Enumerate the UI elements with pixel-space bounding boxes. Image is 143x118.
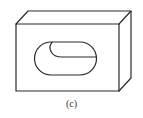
top-face bbox=[16, 11, 131, 24]
right-face bbox=[119, 11, 131, 91]
slot-outline bbox=[35, 42, 97, 75]
figure-caption: (c) bbox=[0, 97, 143, 111]
